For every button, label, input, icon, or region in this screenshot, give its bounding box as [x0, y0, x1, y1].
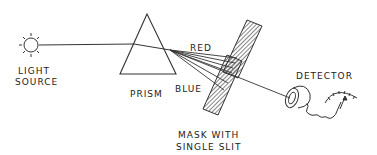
detector-eyepiece-icon: [283, 86, 310, 109]
mask-label-1: MASK WITH: [178, 130, 239, 140]
light-source-label-1: LIGHT: [18, 66, 50, 76]
detector-label: DETECTOR: [296, 71, 353, 81]
spectrometer-diagram: LIGHT SOURCE PRISM RED BLUE MASK WITH SI…: [0, 0, 377, 155]
light-source-label-2: SOURCE: [15, 77, 58, 87]
refracted-beam: [134, 44, 170, 50]
sun-icon: [19, 33, 39, 57]
red-label: RED: [190, 43, 212, 53]
incident-beam: [39, 44, 134, 45]
mask-label-2: SINGLE SLIT: [176, 142, 242, 152]
gauge-icon: [325, 91, 357, 109]
blue-label: BLUE: [175, 84, 202, 94]
coiled-wire: [306, 102, 341, 118]
mask-with-slit: [203, 20, 262, 115]
prism-label: PRISM: [130, 89, 163, 99]
